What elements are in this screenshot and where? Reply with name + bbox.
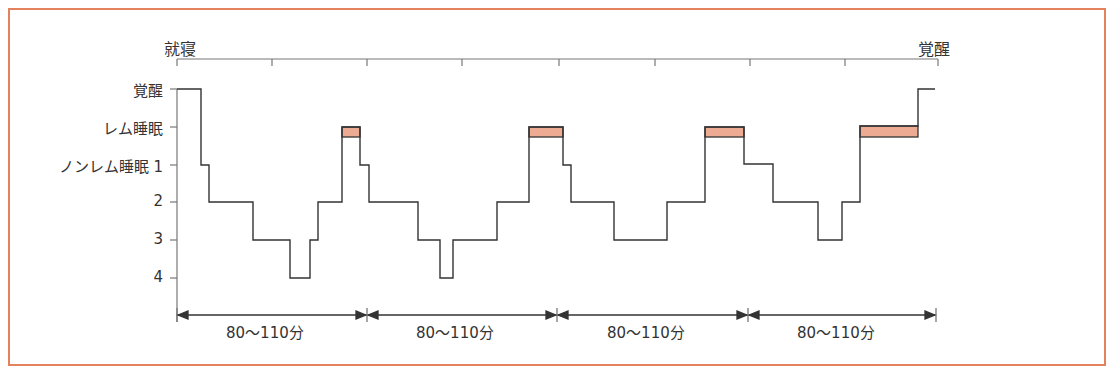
y-label-awake: 覚醒 (3, 79, 163, 100)
cycle-3-label: 80〜110分 (607, 321, 685, 342)
cycle-arrows (177, 308, 936, 322)
y-label-stage-4: 4 (3, 268, 163, 286)
y-label-stage-3: 3 (3, 230, 163, 248)
wake-label: 覚醒 (918, 36, 950, 60)
top-timeline (177, 59, 938, 66)
cycle-1-label: 80〜110分 (226, 321, 304, 342)
bedtime-label: 就寝 (164, 36, 196, 60)
sleep-stage-line (177, 89, 935, 278)
y-label-rem: レム睡眠 (3, 117, 163, 138)
y-label-stage-2: 2 (3, 192, 163, 210)
y-label-nrem-1: ノンレム睡眠 1 (3, 155, 163, 176)
rem-blocks (342, 126, 918, 137)
cycle-4-label: 80〜110分 (797, 321, 875, 342)
y-axis (170, 89, 177, 322)
cycle-2-label: 80〜110分 (416, 321, 494, 342)
